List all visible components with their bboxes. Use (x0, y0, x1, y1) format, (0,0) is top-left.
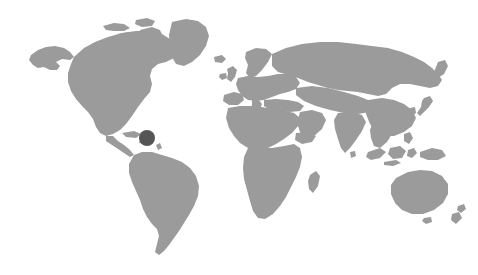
world-map-svg (0, 0, 478, 275)
location-marker[interactable] (139, 130, 155, 146)
world-map-figure: Grayscale world map with a single dark m… (0, 0, 478, 275)
